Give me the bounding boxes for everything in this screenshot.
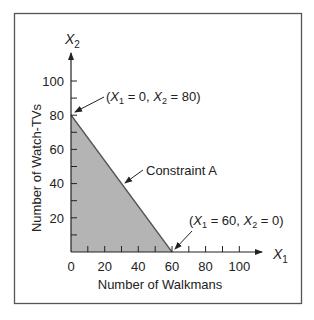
y-axis-title: Number of Watch-TVs xyxy=(29,103,44,232)
x-axis-symbol: X1 xyxy=(272,246,288,265)
y-axis-symbol: X2 xyxy=(64,31,80,50)
y-tick-label: 100 xyxy=(42,74,64,89)
y-tick-label: 80 xyxy=(50,108,64,123)
chart: 0 20 40 60 80 100 20 40 60 80 100 Number… xyxy=(0,0,314,320)
annotation-point-60-0: (X1 = 60, X2 = 0) xyxy=(189,213,284,230)
x-tick-labels: 0 20 40 60 80 100 xyxy=(67,259,250,274)
annotation-arrow xyxy=(125,170,143,183)
y-tick-labels: 20 40 60 80 100 xyxy=(42,74,64,226)
y-tick-label: 60 xyxy=(50,142,64,157)
annotation-arrow xyxy=(75,97,104,112)
x-axis-title: Number of Walkmans xyxy=(98,277,223,292)
y-tick-label: 20 xyxy=(50,211,64,226)
y-tick-label: 40 xyxy=(50,176,64,191)
x-tick-label: 0 xyxy=(67,259,74,274)
x-tick-label: 80 xyxy=(198,259,212,274)
chart-frame xyxy=(15,14,302,304)
x-tick-label: 40 xyxy=(131,259,145,274)
x-tick-label: 60 xyxy=(165,259,179,274)
x-tick-label: 100 xyxy=(228,259,250,274)
annotation-constraint-a: Constraint A xyxy=(146,163,217,178)
annotation-point-0-80: (X1 = 0, X2 = 80) xyxy=(106,89,201,106)
x-tick-label: 20 xyxy=(97,259,111,274)
annotation-arrow xyxy=(175,231,192,249)
